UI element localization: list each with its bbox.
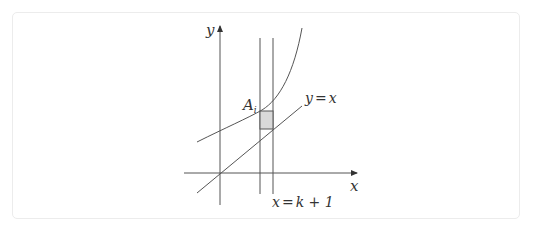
vline-equation-label: x=k + 1 bbox=[272, 194, 334, 210]
vline-eq-eq: = bbox=[282, 194, 294, 210]
point-label: Ai bbox=[241, 96, 257, 115]
shaded-rectangle bbox=[260, 111, 273, 129]
point-label-sub: i bbox=[254, 105, 257, 115]
diagram-canvas: y x Ai y=x x=k + 1 bbox=[0, 0, 533, 232]
line-y-equals-x bbox=[197, 106, 302, 193]
line-eq-lhs: y bbox=[304, 90, 314, 106]
x-axis-label: x bbox=[350, 177, 359, 195]
line-eq-eq: = bbox=[315, 90, 327, 106]
vline-eq-lhs: x bbox=[272, 194, 280, 210]
vline-eq-rhs: k + 1 bbox=[296, 194, 334, 210]
line-eq-rhs: x bbox=[329, 90, 337, 106]
line-equation-label: y=x bbox=[304, 90, 337, 106]
curve bbox=[197, 28, 302, 142]
point-label-main: A bbox=[241, 96, 254, 114]
y-axis-label: y bbox=[205, 21, 215, 39]
